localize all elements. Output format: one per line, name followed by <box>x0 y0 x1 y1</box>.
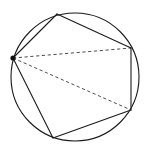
geometry-figure-canvas <box>0 0 147 153</box>
geometry-figure-svg <box>0 0 147 153</box>
vertex-left-marked-dot <box>10 55 15 60</box>
